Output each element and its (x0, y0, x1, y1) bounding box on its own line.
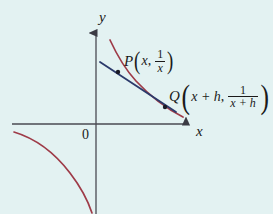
point-label-Q-numerator: 1 (238, 84, 248, 97)
point-label-Q-comma: , (221, 89, 225, 105)
point-label-Q-open-paren: ( (181, 83, 189, 110)
y-axis-label: y (99, 10, 106, 25)
point-label-Q-name: Q (169, 88, 180, 105)
point-label-Q-arg1: x + h (191, 89, 221, 105)
point-label-Q-fraction: 1 x + h (228, 84, 257, 110)
hyperbola-branch-lower (14, 132, 92, 213)
point-label-P-numerator: 1 (155, 48, 165, 61)
point-label-Q-close-paren: ) (260, 83, 268, 110)
point-label-P-open-paren: ( (134, 51, 140, 72)
point-label-Q: Q ( x + h , 1 x + h ) (169, 83, 270, 110)
x-axis-label: x (196, 124, 203, 139)
point-marker-Q (163, 105, 167, 109)
point-label-Q-denominator: x + h (228, 97, 257, 110)
point-label-P-close-paren: ) (167, 51, 173, 72)
hyperbola-secant-figure: y x 0 P ( x , 1 x ) Q ( x + h , 1 x + h … (0, 0, 273, 214)
point-marker-P (116, 70, 120, 74)
point-label-P-comma: , (148, 53, 152, 69)
point-label-P: P ( x , 1 x ) (124, 48, 175, 74)
point-label-P-fraction: 1 x (155, 48, 165, 74)
point-label-P-name: P (124, 53, 133, 70)
point-label-P-denominator: x (156, 62, 165, 75)
origin-label: 0 (82, 128, 89, 142)
